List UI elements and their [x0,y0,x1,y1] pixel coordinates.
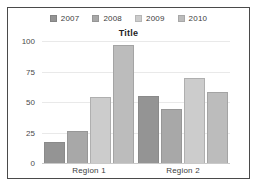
legend-item-2007[interactable]: 2007 [50,14,80,23]
legend-item-2008[interactable]: 2008 [92,14,122,23]
chart-frame: 2007200820092010 Title 0255075100 Region… [7,7,250,179]
y-tick-label: 25 [26,128,35,137]
chart-title: Title [8,28,249,38]
bar-group [42,41,136,163]
bar-groups [42,41,230,163]
y-tick-label: 0 [31,159,35,168]
legend-swatch-icon [92,15,99,22]
bar-2010-region-2[interactable] [207,92,228,163]
bar-2007-region-1[interactable] [44,142,65,163]
bar-2007-region-2[interactable] [138,96,159,163]
gridline [42,163,230,164]
legend-swatch-icon [50,15,57,22]
legend-label: 2010 [189,14,208,23]
y-tick-label: 50 [26,98,35,107]
plot-area [42,41,230,163]
legend-label: 2007 [61,14,80,23]
y-tick-label: 75 [26,67,35,76]
bar-2010-region-1[interactable] [113,45,134,163]
bar-2009-region-1[interactable] [90,97,111,163]
x-axis-label: Region 1 [42,166,136,175]
legend-swatch-icon [135,15,142,22]
y-axis: 0255075100 [8,41,40,163]
bar-group [136,41,230,163]
chart-legend: 2007200820092010 [8,14,249,23]
legend-item-2009[interactable]: 2009 [135,14,165,23]
x-axis-labels: Region 1Region 2 [42,166,230,175]
legend-label: 2008 [103,14,122,23]
bar-2008-region-1[interactable] [67,131,88,163]
bar-2009-region-2[interactable] [184,78,205,163]
y-tick-label: 100 [22,37,35,46]
legend-swatch-icon [178,15,185,22]
bar-2008-region-2[interactable] [161,109,182,163]
x-axis-label: Region 2 [136,166,230,175]
legend-item-2010[interactable]: 2010 [178,14,208,23]
legend-label: 2009 [146,14,165,23]
